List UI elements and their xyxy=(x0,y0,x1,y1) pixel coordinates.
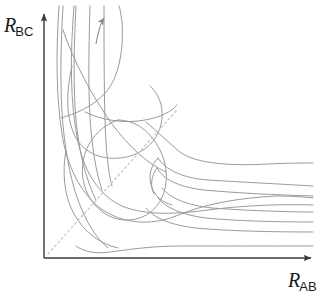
contour-group-exit-channel xyxy=(76,158,313,253)
y-axis-label: RBC xyxy=(4,14,34,39)
pes-contour-figure: RBC RAB xyxy=(0,0,331,303)
contour-corner-outer xyxy=(57,6,313,222)
x-axis-label-subscript: AB xyxy=(299,279,317,294)
x-axis-label: RAB xyxy=(288,269,317,294)
pes-contour-canvas xyxy=(0,0,331,303)
y-axis-label-subscript: BC xyxy=(15,24,33,39)
contour-group-entrance-channel xyxy=(61,6,166,248)
reaction-path-arrow xyxy=(96,18,104,44)
contour-inner-well-loop xyxy=(82,120,166,220)
contour-entrance-4 xyxy=(104,6,112,186)
contour-exit-1 xyxy=(158,158,313,186)
contour-exit-nose-1 xyxy=(150,158,172,205)
contour-exit-nose-2 xyxy=(152,168,157,194)
contour-group-corner xyxy=(57,6,313,222)
contour-crossing-sweep xyxy=(63,30,166,172)
contour-saddle-branch xyxy=(146,122,313,165)
contour-entrance-2 xyxy=(74,6,96,200)
contour-corner-mid xyxy=(71,6,313,213)
contour-crossing-sweep-2 xyxy=(61,6,122,118)
contour-saddle-ridge xyxy=(85,105,177,122)
contour-floor xyxy=(76,246,313,253)
contour-corner-upper-lobe xyxy=(68,66,162,158)
